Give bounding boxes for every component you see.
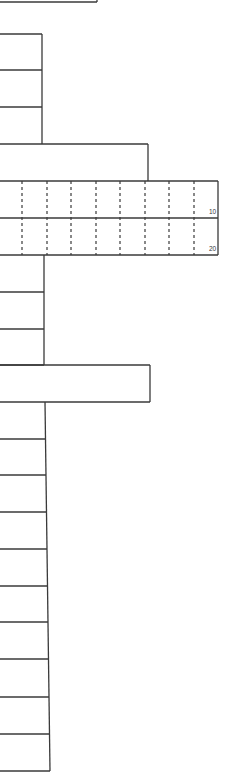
row-label: 10	[209, 208, 217, 215]
top-segment	[0, 0, 97, 2]
grid-labels: 1020	[209, 208, 217, 252]
lower-stack	[0, 402, 50, 771]
row-label: 20	[209, 245, 217, 252]
lower-wide-box	[0, 365, 150, 402]
middle-stack	[0, 255, 44, 365]
grid-panel	[0, 181, 218, 255]
line-diagram: 1020	[0, 0, 234, 780]
upper-stack	[0, 34, 42, 144]
upper-wide-step	[42, 144, 148, 181]
